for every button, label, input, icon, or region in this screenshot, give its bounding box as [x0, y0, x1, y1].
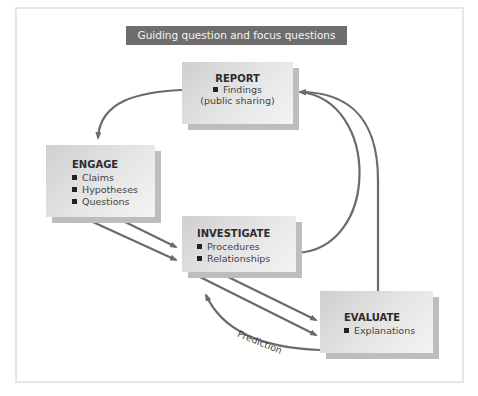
engage-item: Questions: [72, 196, 155, 208]
arrow-investigate-to-report: [296, 92, 360, 253]
investigate-item: Procedures: [197, 241, 296, 253]
report-title: REPORT: [182, 73, 293, 84]
evaluate-title: EVALUATE: [344, 312, 433, 323]
engage-title: ENGAGE: [72, 159, 155, 170]
arrow-investigate-to-evaluate-2: [196, 275, 316, 335]
engage-node: ENGAGE Claims Hypotheses Questions: [46, 145, 155, 217]
arrow-investigate-to-evaluate-1: [218, 272, 316, 320]
arrow-evaluate-to-report: [300, 92, 378, 291]
report-item: Findings: [182, 84, 293, 95]
engage-item: Hypotheses: [72, 184, 155, 196]
arrow-engage-to-investigate-1: [115, 217, 176, 247]
investigate-node: INVESTIGATE Procedures Relationships: [182, 216, 296, 272]
evaluate-item: Explanations: [344, 325, 433, 337]
evaluate-node: EVALUATE Explanations: [320, 291, 433, 353]
investigate-item: Relationships: [197, 253, 296, 265]
investigate-title: INVESTIGATE: [197, 228, 296, 239]
arrow-report-to-engage: [98, 90, 182, 138]
engage-item: Claims: [72, 172, 155, 184]
report-subtitle: (public sharing): [182, 95, 293, 106]
report-node: REPORT Findings (public sharing): [182, 62, 293, 124]
